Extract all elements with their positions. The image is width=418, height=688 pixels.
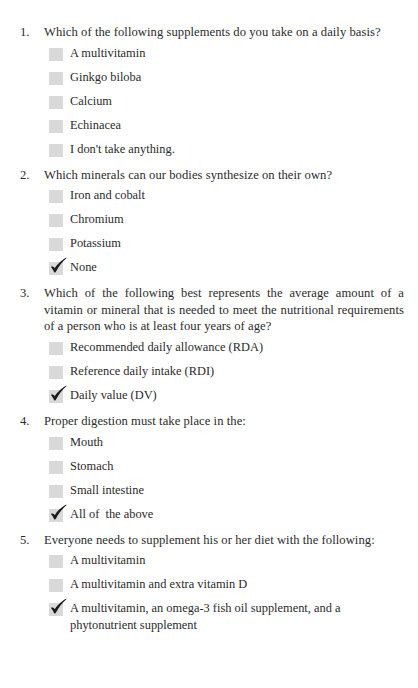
question-number: 5. [20, 532, 44, 549]
option-label: A multivitamin [70, 45, 388, 62]
checkbox-control[interactable] [49, 482, 70, 500]
option-label: Echinacea [70, 117, 388, 134]
option-row[interactable]: Echinacea [0, 117, 418, 136]
checkbox-control[interactable] [49, 434, 70, 452]
checkbox-control[interactable] [49, 141, 70, 159]
option-label: A multivitamin and extra vitamin D [70, 576, 388, 593]
question-block: 1.Which of the following supplements do … [0, 24, 418, 160]
checkbox-square[interactable] [49, 342, 63, 355]
checkbox-square[interactable] [49, 96, 63, 109]
checkbox-square[interactable] [49, 72, 63, 85]
question-row: 2.Which minerals can our bodies synthesi… [0, 167, 418, 184]
question-row: 3.Which of the following best represents… [0, 285, 418, 335]
option-label: Calcium [70, 93, 388, 110]
option-row[interactable]: Small intestine [0, 482, 418, 501]
option-label: A multivitamin, an omega-3 fish oil supp… [70, 600, 388, 634]
checkbox-square[interactable] [49, 485, 63, 498]
option-row[interactable]: A multivitamin and extra vitamin D [0, 576, 418, 595]
option-label: Iron and cobalt [70, 187, 388, 204]
option-label: All of the above [70, 506, 388, 523]
checkbox-square[interactable] [49, 509, 63, 522]
question-block: 2.Which minerals can our bodies synthesi… [0, 167, 418, 279]
option-row[interactable]: Potassium [0, 235, 418, 254]
option-row[interactable]: Ginkgo biloba [0, 69, 418, 88]
question-block: 5.Everyone needs to supplement his or he… [0, 532, 418, 635]
question-block: 4.Proper digestion must take place in th… [0, 413, 418, 525]
checkbox-square[interactable] [49, 48, 63, 61]
question-number: 3. [20, 285, 44, 302]
option-row[interactable]: A multivitamin, an omega-3 fish oil supp… [0, 600, 418, 634]
question-text: Proper digestion must take place in the: [44, 413, 404, 430]
option-row[interactable]: All of the above [0, 506, 418, 525]
question-row: 5.Everyone needs to supplement his or he… [0, 532, 418, 549]
question-text: Everyone needs to supplement his or her … [44, 532, 404, 549]
option-label: Small intestine [70, 482, 388, 499]
checkbox-control[interactable] [49, 117, 70, 135]
option-label: Potassium [70, 235, 388, 252]
option-row[interactable]: A multivitamin [0, 45, 418, 64]
checkbox-square[interactable] [49, 262, 63, 275]
option-row[interactable]: A multivitamin [0, 552, 418, 571]
checkbox-square[interactable] [49, 214, 63, 227]
option-label: A multivitamin [70, 552, 388, 569]
checkbox-square[interactable] [49, 120, 63, 133]
checkbox-control[interactable] [49, 552, 70, 570]
checkbox-control[interactable] [49, 187, 70, 205]
option-label: Ginkgo biloba [70, 69, 388, 86]
question-number: 1. [20, 24, 44, 41]
checkbox-control[interactable] [49, 387, 70, 405]
option-row[interactable]: I don't take anything. [0, 141, 418, 160]
checkbox-square[interactable] [49, 437, 63, 450]
option-label: Recommended daily allowance (RDA) [70, 339, 388, 356]
checkbox-square[interactable] [49, 190, 63, 203]
checkbox-square[interactable] [49, 461, 63, 474]
option-row[interactable]: Stomach [0, 458, 418, 477]
checkbox-square[interactable] [49, 603, 63, 616]
option-row[interactable]: Reference daily intake (RDI) [0, 363, 418, 382]
checkbox-control[interactable] [49, 69, 70, 87]
checkbox-control[interactable] [49, 363, 70, 381]
option-list: MouthStomachSmall intestineAll of the ab… [0, 434, 418, 525]
question-block: 3.Which of the following best represents… [0, 285, 418, 406]
option-label: I don't take anything. [70, 141, 388, 158]
checkbox-square[interactable] [49, 579, 63, 592]
option-row[interactable]: Recommended daily allowance (RDA) [0, 339, 418, 358]
option-row[interactable]: Daily value (DV) [0, 387, 418, 406]
question-number: 4. [20, 413, 44, 430]
question-row: 4.Proper digestion must take place in th… [0, 413, 418, 430]
checkbox-control[interactable] [49, 235, 70, 253]
question-number: 2. [20, 167, 44, 184]
question-text: Which minerals can our bodies synthesize… [44, 167, 404, 184]
checkbox-control[interactable] [49, 93, 70, 111]
checkbox-control[interactable] [49, 339, 70, 357]
checkbox-control[interactable] [49, 259, 70, 277]
option-label: Mouth [70, 434, 388, 451]
question-text: Which of the following best represents t… [44, 285, 404, 335]
option-label: None [70, 259, 388, 276]
option-list: A multivitaminA multivitamin and extra v… [0, 552, 418, 634]
quiz-question-list: 1.Which of the following supplements do … [0, 24, 418, 635]
checkbox-square[interactable] [49, 144, 63, 157]
checkbox-control[interactable] [49, 458, 70, 476]
checkbox-control[interactable] [49, 211, 70, 229]
option-label: Daily value (DV) [70, 387, 388, 404]
question-row: 1.Which of the following supplements do … [0, 24, 418, 41]
checkbox-control[interactable] [49, 600, 70, 618]
checkbox-square[interactable] [49, 390, 63, 403]
checkbox-control[interactable] [49, 576, 70, 594]
option-row[interactable]: None [0, 259, 418, 278]
checkbox-square[interactable] [49, 238, 63, 251]
checkbox-square[interactable] [49, 555, 63, 568]
checkbox-square[interactable] [49, 366, 63, 379]
checkbox-control[interactable] [49, 45, 70, 63]
option-row[interactable]: Calcium [0, 93, 418, 112]
option-list: Recommended daily allowance (RDA)Referen… [0, 339, 418, 406]
question-text: Which of the following supplements do yo… [44, 24, 404, 41]
option-label: Reference daily intake (RDI) [70, 363, 388, 380]
option-list: A multivitaminGinkgo bilobaCalciumEchina… [0, 45, 418, 160]
checkbox-control[interactable] [49, 506, 70, 524]
option-row[interactable]: Chromium [0, 211, 418, 230]
option-row[interactable]: Iron and cobalt [0, 187, 418, 206]
option-list: Iron and cobaltChromiumPotassiumNone [0, 187, 418, 278]
option-row[interactable]: Mouth [0, 434, 418, 453]
